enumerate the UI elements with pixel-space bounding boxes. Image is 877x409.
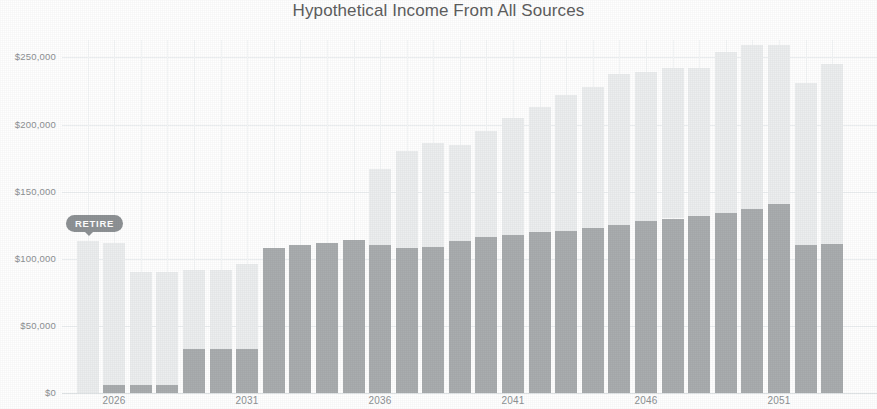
bar-2034[interactable] xyxy=(316,40,338,393)
chart-title: Hypothetical Income From All Sources xyxy=(0,1,877,21)
bar-segment-upper xyxy=(77,241,99,393)
bar-2043[interactable] xyxy=(555,40,577,393)
bar-segment-lower xyxy=(236,349,258,393)
bar-segment-upper xyxy=(449,145,471,242)
bar-segment-lower xyxy=(555,231,577,393)
bar-segment-lower xyxy=(396,248,418,393)
bar-segment-upper xyxy=(422,143,444,246)
bar-segment-upper xyxy=(369,169,391,246)
bar-2036[interactable] xyxy=(369,40,391,393)
bar-2027[interactable] xyxy=(130,40,152,393)
y-tick-label: $150,000 xyxy=(0,186,56,197)
y-axis-labels: $250,000$200,000$150,000$100,000$50,000$… xyxy=(0,0,58,409)
bar-segment-lower xyxy=(741,209,763,393)
bar-segment-lower xyxy=(529,232,551,393)
bar-segment-upper xyxy=(236,264,258,349)
bar-2052[interactable] xyxy=(795,40,817,393)
bar-segment-lower xyxy=(369,245,391,393)
bar-segment-lower xyxy=(210,349,232,393)
bar-segment-upper xyxy=(741,45,763,209)
bar-segment-upper xyxy=(396,151,418,248)
bar-segment-lower xyxy=(795,245,817,393)
bar-segment-upper xyxy=(475,131,497,237)
bar-2044[interactable] xyxy=(582,40,604,393)
plot-area xyxy=(62,40,877,393)
bar-segment-upper xyxy=(210,270,232,349)
bar-2049[interactable] xyxy=(715,40,737,393)
bar-segment-lower xyxy=(316,243,338,393)
bar-segment-lower xyxy=(635,221,657,393)
bar-2051[interactable] xyxy=(768,40,790,393)
bar-segment-lower xyxy=(582,228,604,393)
bar-2039[interactable] xyxy=(449,40,471,393)
x-tick-label: 2036 xyxy=(368,395,391,406)
bar-2029[interactable] xyxy=(183,40,205,393)
retire-marker[interactable]: RETIRE xyxy=(66,213,123,232)
bar-segment-upper xyxy=(688,68,710,216)
bar-2037[interactable] xyxy=(396,40,418,393)
bar-2047[interactable] xyxy=(662,40,684,393)
bar-segment-upper xyxy=(529,107,551,232)
bar-2035[interactable] xyxy=(343,40,365,393)
x-tick-label: 2026 xyxy=(102,395,125,406)
bar-segment-upper xyxy=(821,64,843,244)
bar-segment-lower xyxy=(343,240,365,393)
x-tick-label: 2046 xyxy=(634,395,657,406)
bar-segment-lower xyxy=(130,385,152,393)
bar-segment-upper xyxy=(156,272,178,385)
bar-segment-upper xyxy=(608,74,630,226)
bar-segment-upper xyxy=(183,270,205,349)
x-tick-label: 2051 xyxy=(767,395,790,406)
bar-2040[interactable] xyxy=(475,40,497,393)
bar-segment-lower xyxy=(821,244,843,393)
bar-2041[interactable] xyxy=(502,40,524,393)
bar-2033[interactable] xyxy=(289,40,311,393)
bar-segment-lower xyxy=(103,385,125,393)
bar-segment-lower xyxy=(475,237,497,393)
bar-2030[interactable] xyxy=(210,40,232,393)
bar-segment-upper xyxy=(130,272,152,385)
bar-2046[interactable] xyxy=(635,40,657,393)
retire-marker-label: RETIRE xyxy=(66,215,123,232)
bar-segment-lower xyxy=(768,204,790,393)
x-tick-label: 2041 xyxy=(501,395,524,406)
bar-2028[interactable] xyxy=(156,40,178,393)
bar-segment-upper xyxy=(768,45,790,203)
bar-segment-upper xyxy=(502,118,524,235)
bar-2031[interactable] xyxy=(236,40,258,393)
bar-segment-lower xyxy=(263,248,285,393)
x-axis-labels: 202620312036204120462051 xyxy=(62,393,877,409)
bar-2038[interactable] xyxy=(422,40,444,393)
bar-segment-upper xyxy=(582,87,604,228)
y-tick-label: $50,000 xyxy=(0,320,56,331)
bar-segment-upper xyxy=(795,83,817,245)
bar-2042[interactable] xyxy=(529,40,551,393)
bar-2050[interactable] xyxy=(741,40,763,393)
bar-segment-lower xyxy=(422,247,444,393)
bar-2032[interactable] xyxy=(263,40,285,393)
bar-2048[interactable] xyxy=(688,40,710,393)
bar-segment-upper xyxy=(103,243,125,385)
bar-segment-lower xyxy=(183,349,205,393)
y-tick-label: $0 xyxy=(0,387,56,398)
bar-segment-upper xyxy=(715,52,737,213)
bar-segment-lower xyxy=(662,219,684,393)
x-tick-label: 2031 xyxy=(235,395,258,406)
bar-segment-lower xyxy=(156,385,178,393)
bar-segment-upper xyxy=(635,72,657,221)
bar-segment-lower xyxy=(715,213,737,393)
y-tick-label: $100,000 xyxy=(0,253,56,264)
bar-2053[interactable] xyxy=(821,40,843,393)
bar-segment-lower xyxy=(502,235,524,393)
chart-root: Hypothetical Income From All Sources $25… xyxy=(0,0,877,409)
y-tick-label: $250,000 xyxy=(0,51,56,62)
bar-segment-lower xyxy=(449,241,471,393)
bar-segment-lower xyxy=(608,225,630,393)
bar-segment-upper xyxy=(662,68,684,218)
bar-segment-upper xyxy=(555,95,577,231)
y-tick-label: $200,000 xyxy=(0,119,56,130)
bar-segment-lower xyxy=(289,245,311,393)
bar-segment-lower xyxy=(688,216,710,393)
bar-2045[interactable] xyxy=(608,40,630,393)
